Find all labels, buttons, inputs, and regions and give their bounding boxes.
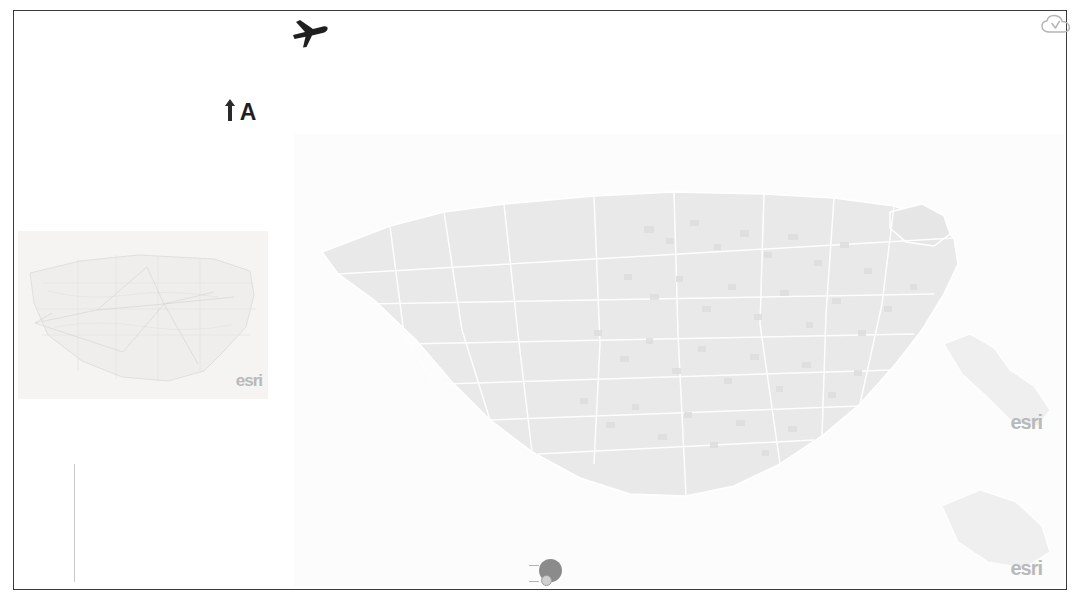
esri-logo-alaska: esri xyxy=(1010,557,1042,580)
esri-logo-crossstate: esri xyxy=(236,371,262,391)
size-arrow-icon xyxy=(223,98,237,122)
cross-state-basemap xyxy=(18,231,268,399)
airport-risk-map-canvas[interactable]: esri esri xyxy=(294,134,1064,586)
size-legend-leader-min xyxy=(529,581,539,582)
dashboard-root: A xyxy=(0,0,1080,601)
sas-viya-brand xyxy=(1024,14,1080,37)
esri-logo-hawaii: esri xyxy=(1010,411,1042,434)
cross-state-map-canvas[interactable]: esri xyxy=(18,231,268,399)
airplane-icon xyxy=(289,16,329,50)
bar-chart-plot xyxy=(18,464,270,584)
quote-traffic xyxy=(304,434,479,435)
cancellation-reason-donuts xyxy=(700,38,1068,130)
us-basemap xyxy=(294,134,1064,586)
wordcloud-size-legend: A xyxy=(205,95,267,140)
cross-state-departure-delay-map[interactable]: esri xyxy=(18,215,268,400)
size-legend-leader-max xyxy=(529,565,539,566)
letter-a-size-icon: A xyxy=(237,98,259,122)
sas-viya-cloud-icon xyxy=(1041,14,1071,36)
quote-busiest-airports xyxy=(634,530,934,531)
svg-text:A: A xyxy=(240,99,257,122)
airport-risk-map-object: esri esri xyxy=(289,118,1067,588)
bar-chart-axis-line xyxy=(74,464,75,582)
delay-by-day-bar-chart[interactable] xyxy=(18,418,270,586)
bubble-size-legend xyxy=(509,558,659,586)
size-legend-small-circle xyxy=(541,575,552,586)
